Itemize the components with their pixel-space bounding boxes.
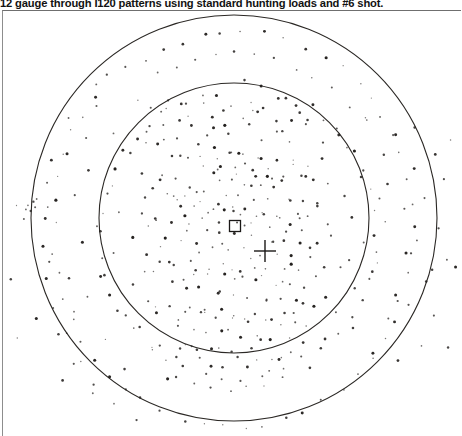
pellet-strike xyxy=(283,368,285,370)
pellet-strike xyxy=(68,117,70,119)
pellet-strike xyxy=(266,175,269,178)
pellet-strike xyxy=(199,156,200,157)
pellet-strike xyxy=(303,287,305,289)
inner-circle xyxy=(99,83,369,353)
pellet-strike xyxy=(247,320,250,323)
pellet-strike xyxy=(201,217,203,219)
pellet-strike xyxy=(32,201,34,203)
pellet-strike xyxy=(233,315,235,317)
pellet-strike xyxy=(324,338,327,341)
pellet-strike xyxy=(320,399,322,401)
pellet-strike xyxy=(141,212,143,214)
pellet-strike xyxy=(290,263,293,266)
pellet-strike xyxy=(246,428,247,429)
pellet-strike xyxy=(300,355,302,357)
pellet-strike xyxy=(246,297,248,299)
pellet-strike xyxy=(168,305,170,307)
pellet-strike xyxy=(193,205,195,207)
pellet-strike xyxy=(331,87,333,89)
pellet-strike xyxy=(41,245,44,248)
pellet-strike xyxy=(387,318,389,320)
pellet-strike xyxy=(302,200,304,202)
pellet-strike xyxy=(379,116,381,118)
pellet-strike xyxy=(431,269,433,271)
pellet-strike xyxy=(113,403,115,405)
pellet-strike xyxy=(254,267,256,269)
pellet-strike xyxy=(365,117,366,118)
pellet-strike xyxy=(384,221,386,223)
pellet-strike xyxy=(243,79,246,82)
pellet-strike xyxy=(275,285,276,286)
pellet-strike xyxy=(132,283,135,286)
pellet-strike xyxy=(106,74,108,76)
pellet-strike xyxy=(261,275,262,276)
pellet-strike xyxy=(271,359,272,360)
pellet-strike xyxy=(237,194,239,196)
pellet-strike xyxy=(210,347,213,350)
pellet-strike xyxy=(421,345,423,347)
pellet-strike xyxy=(35,317,38,320)
pellet-strike xyxy=(312,178,315,181)
pellet-strike xyxy=(188,223,190,225)
pellet-strike xyxy=(146,131,148,133)
pellet-strike xyxy=(297,213,299,215)
pellet-strike xyxy=(217,169,219,171)
pellet-strike xyxy=(281,130,283,132)
pellet-strike xyxy=(218,32,220,34)
pellet-strike xyxy=(165,108,166,109)
pellet-strike xyxy=(282,37,284,39)
pellet-strike xyxy=(66,332,68,334)
pellet-strike xyxy=(193,274,194,275)
pellet-strike xyxy=(268,370,270,372)
pellet-strike xyxy=(302,302,305,305)
pellet-strike xyxy=(231,269,232,270)
pellet-strike xyxy=(394,293,397,296)
pellet-strike xyxy=(282,376,284,378)
pellet-strike xyxy=(254,313,256,315)
pellet-strike xyxy=(73,318,75,320)
pellet-strike xyxy=(260,157,263,160)
pellet-strike xyxy=(184,195,185,196)
pellet-strike xyxy=(221,366,224,369)
pellet-strike xyxy=(189,186,191,188)
pellet-strike xyxy=(160,111,162,113)
pellet-strike xyxy=(447,346,449,348)
pellet-strike xyxy=(425,280,428,283)
pellet-strike xyxy=(412,203,414,205)
pellet-strike xyxy=(139,396,141,398)
pellet-strike xyxy=(46,182,48,184)
pellet-strike xyxy=(407,304,409,306)
pellet-strike xyxy=(193,383,195,385)
pellet-strike xyxy=(133,327,135,329)
pellet-strike xyxy=(106,192,108,194)
pellet-strike xyxy=(166,193,168,195)
pellet-strike xyxy=(282,281,284,283)
pellet-strike xyxy=(199,201,200,202)
pellet-strike xyxy=(157,72,159,74)
pellet-strike xyxy=(289,337,290,338)
pellet-strike xyxy=(323,266,326,269)
pellet-strike xyxy=(54,199,57,202)
pellet-strike xyxy=(96,225,98,227)
pellet-strike xyxy=(154,217,157,220)
pellet-strike xyxy=(209,386,211,388)
pellet-strike xyxy=(44,217,47,220)
pellet-strike xyxy=(59,272,61,274)
pellet-strike xyxy=(113,167,116,170)
pellet-strike xyxy=(363,242,365,244)
pellet-strike xyxy=(34,206,36,208)
pellet-strike xyxy=(269,338,272,341)
pellet-strike xyxy=(256,335,258,337)
pellet-strike xyxy=(197,285,200,288)
pellet-strike xyxy=(163,139,165,141)
pellet-strike xyxy=(175,376,177,378)
pellet-strike xyxy=(242,153,244,155)
pellet-strike xyxy=(254,175,257,178)
pellet-strike xyxy=(276,215,278,217)
pellet-strike xyxy=(68,277,71,280)
figure-page: 12 gauge through I120 patterns using sta… xyxy=(0,0,462,436)
pellet-strike xyxy=(416,239,418,241)
pellet-strike xyxy=(166,377,169,380)
pellet-strike xyxy=(185,344,186,345)
pellet-strike xyxy=(273,57,275,59)
